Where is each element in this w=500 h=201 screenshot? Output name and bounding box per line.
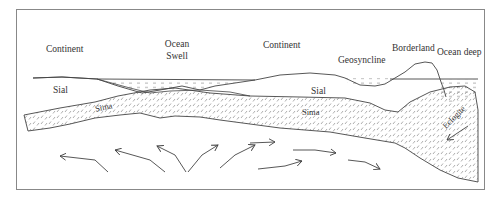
label-sial-left: Sial <box>53 85 68 96</box>
label-continent-left: Continent <box>46 44 83 55</box>
convection-arrow <box>258 161 302 169</box>
label-sial-right: Sial <box>311 86 326 97</box>
cross-section-drawing <box>0 0 500 201</box>
convection-arrow <box>220 145 255 168</box>
convection-arrow <box>293 150 336 153</box>
label-ocean-swell-line2: Swell <box>166 51 188 62</box>
label-ocean-deep: Ocean deep <box>437 47 482 58</box>
convection-arrow <box>60 156 108 172</box>
label-sima-right: Sima <box>302 107 319 118</box>
convection-arrow <box>250 142 275 143</box>
sima-layer <box>24 86 478 182</box>
label-continent-right: Continent <box>263 40 300 51</box>
convection-arrow <box>348 160 380 169</box>
convection-arrow <box>157 146 186 172</box>
convection-arrow <box>188 145 218 172</box>
convection-arrow <box>115 150 165 172</box>
label-borderland: Borderland <box>392 43 435 54</box>
label-ocean-swell-line1: Ocean <box>165 39 189 50</box>
label-geosyncline: Geosyncline <box>338 55 386 66</box>
